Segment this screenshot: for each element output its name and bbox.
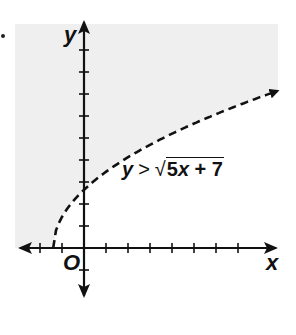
problem-marker-dot: [1, 34, 5, 38]
inequality-operator: >: [138, 158, 150, 180]
x-axis-label: x: [266, 250, 278, 276]
radicand-coefficient: 5: [167, 158, 178, 180]
shaded-solution-region: [15, 24, 278, 248]
radicand-constant: + 7: [189, 158, 223, 180]
radical-sign: √: [155, 158, 166, 180]
y-axis-label: y: [64, 22, 76, 48]
inequality-lhs: y: [122, 158, 133, 180]
origin-label: O: [63, 250, 80, 276]
radicand-variable: x: [178, 158, 189, 180]
radicand: 5x + 7: [166, 157, 224, 180]
inequality-label: y>√5x + 7: [122, 158, 224, 181]
